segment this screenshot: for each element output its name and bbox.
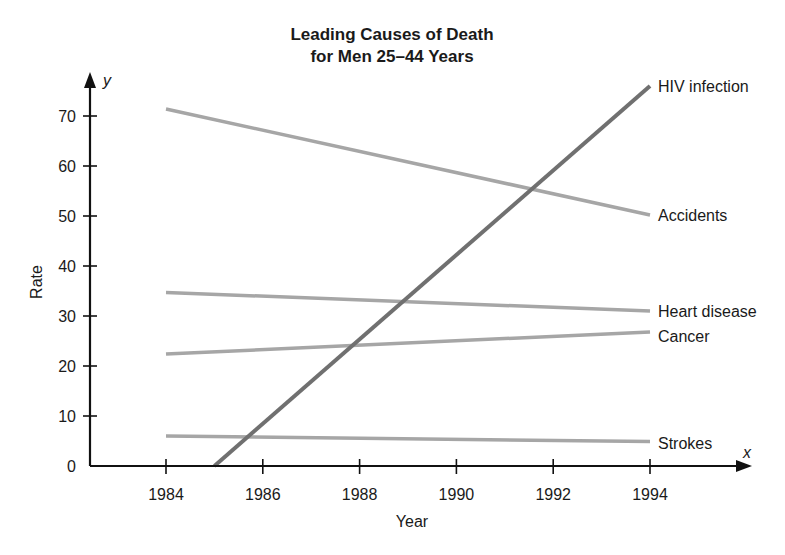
y-axis-arrow-icon <box>84 72 96 88</box>
y-axis-label: Rate <box>28 265 45 299</box>
y-axis-variable: y <box>102 72 112 89</box>
x-tick-label: 1988 <box>342 486 378 503</box>
y-tick-label: 0 <box>67 458 76 475</box>
series-layer <box>166 86 650 466</box>
y-tick-label: 40 <box>58 258 76 275</box>
y-tick-label: 20 <box>58 358 76 375</box>
x-tick-label: 1990 <box>439 486 475 503</box>
y-ticks: 010203040506070 <box>58 108 97 475</box>
x-tick-label: 1986 <box>245 486 281 503</box>
series-label-cancer: Cancer <box>658 328 710 345</box>
x-tick-label: 1992 <box>535 486 571 503</box>
series-line-hiv-infection <box>214 86 650 466</box>
series-label-hiv-infection: HIV infection <box>658 78 749 95</box>
series-line-accidents <box>166 109 650 215</box>
x-axis-arrow-icon <box>736 460 752 472</box>
y-tick-label: 50 <box>58 208 76 225</box>
series-label-accidents: Accidents <box>658 207 727 224</box>
chart-subtitle: for Men 25–44 Years <box>310 47 473 66</box>
y-tick-label: 70 <box>58 108 76 125</box>
line-chart: Leading Causes of Death for Men 25–44 Ye… <box>0 0 785 555</box>
series-label-heart-disease: Heart disease <box>658 303 757 320</box>
series-line-cancer <box>166 332 650 354</box>
y-tick-label: 60 <box>58 158 76 175</box>
series-labels: AccidentsHeart diseaseCancerStrokesHIV i… <box>658 78 757 452</box>
x-tick-label: 1984 <box>148 486 184 503</box>
y-tick-label: 10 <box>58 408 76 425</box>
chart-title: Leading Causes of Death <box>290 25 493 44</box>
x-axis-variable: x <box>742 444 752 461</box>
x-axis-label: Year <box>396 513 429 530</box>
y-tick-label: 30 <box>58 308 76 325</box>
series-label-strokes: Strokes <box>658 435 712 452</box>
x-tick-label: 1994 <box>632 486 668 503</box>
series-line-strokes <box>166 436 650 442</box>
